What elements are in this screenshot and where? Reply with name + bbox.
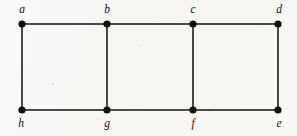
graph-node-b: [103, 20, 110, 27]
node-label-c: c: [190, 4, 195, 16]
edge-layer: [22, 24, 278, 110]
graph-node-f: [189, 106, 196, 113]
diagram-canvas: abcdhgfe: [0, 0, 297, 136]
node-label-b: b: [104, 4, 110, 16]
node-layer: [18, 20, 281, 113]
graph-node-e: [274, 106, 281, 113]
node-label-h: h: [18, 118, 24, 130]
node-label-e: e: [276, 118, 281, 130]
node-label-d: d: [276, 4, 282, 16]
graph-node-a: [18, 20, 25, 27]
graph-node-c: [189, 20, 196, 27]
graph-node-g: [103, 106, 110, 113]
graph-node-h: [18, 106, 25, 113]
graph-node-d: [274, 20, 281, 27]
node-label-f: f: [191, 118, 194, 130]
graph-figure: [0, 0, 297, 136]
node-label-g: g: [104, 118, 110, 130]
node-label-a: a: [19, 4, 25, 16]
